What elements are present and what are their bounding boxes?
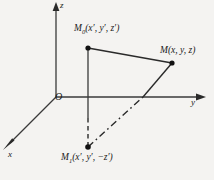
segment-m1-to-m-solid — [143, 63, 172, 97]
point-m0-label: M0(x′, y′, z′) — [74, 24, 119, 35]
z-axis-arrowhead — [53, 2, 60, 11]
point-m0-coords: (x′, y′, z′) — [85, 23, 119, 33]
point-m0-name: M — [74, 23, 82, 33]
point-m1-label: M1(x′, y′, −z′) — [61, 153, 113, 164]
point-m-dot — [169, 60, 174, 65]
x-axis — [3, 97, 56, 150]
point-m1-coords: (x′, y′, −z′) — [72, 152, 113, 162]
coordinate-system-figure: z y x O M0(x′, y′, z′) M(x, y, z) M1(x′,… — [0, 0, 214, 180]
z-axis — [53, 2, 60, 97]
origin-label: O — [55, 92, 62, 102]
point-m1-dot — [85, 144, 91, 150]
segment-m1-to-m-dashed — [88, 97, 143, 147]
z-axis-label: z — [60, 1, 64, 10]
y-axis-label: y — [191, 98, 195, 107]
point-m-coords: (x, y, z) — [168, 45, 195, 55]
x-axis-line — [10, 97, 56, 143]
x-axis-label: x — [8, 150, 12, 159]
y-axis-arrowhead — [196, 94, 206, 101]
y-axis — [56, 94, 206, 101]
point-m-label: M(x, y, z) — [160, 46, 195, 56]
point-m0-dot — [85, 45, 90, 50]
point-m-name: M — [160, 45, 168, 55]
point-m1-name: M — [61, 152, 69, 162]
